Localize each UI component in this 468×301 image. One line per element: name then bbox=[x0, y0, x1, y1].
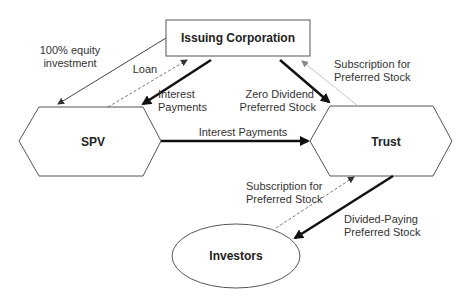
investors-label: Investors bbox=[209, 249, 263, 263]
svg-text:Divided-Paying: Divided-Paying bbox=[344, 213, 418, 225]
svg-text:Zero Dividend: Zero Dividend bbox=[246, 88, 314, 100]
svg-text:Preferred Stock: Preferred Stock bbox=[334, 71, 411, 83]
edge-subscription-investors: Subscription for Preferred Stock bbox=[246, 177, 354, 228]
svg-text:Subscription for: Subscription for bbox=[334, 58, 411, 70]
node-trust: Trust bbox=[310, 106, 452, 176]
node-spv: SPV bbox=[19, 107, 161, 176]
trust-label: Trust bbox=[371, 135, 400, 149]
issuing-corporation-label: Issuing Corporation bbox=[181, 31, 295, 45]
svg-text:100% equity: 100% equity bbox=[40, 44, 101, 56]
svg-text:Preferred Stock: Preferred Stock bbox=[246, 193, 323, 205]
node-investors: Investors bbox=[172, 224, 300, 288]
edge-interest-payments-spv-trust: Interest Payments bbox=[161, 126, 308, 141]
svg-text:Preferred Stock: Preferred Stock bbox=[344, 226, 421, 238]
svg-text:Loan: Loan bbox=[133, 63, 157, 75]
spv-label: SPV bbox=[81, 135, 105, 149]
edge-zero-dividend: Zero Dividend Preferred Stock bbox=[240, 60, 329, 113]
financing-structure-diagram: Issuing Corporation SPV Trust Investors … bbox=[0, 0, 468, 301]
svg-text:investment: investment bbox=[43, 57, 96, 69]
svg-text:Subscription for: Subscription for bbox=[246, 180, 323, 192]
edge-subscription-corp: Subscription for Preferred Stock bbox=[302, 58, 411, 106]
svg-text:Interest: Interest bbox=[158, 88, 195, 100]
node-issuing-corporation: Issuing Corporation bbox=[166, 20, 310, 56]
svg-text:Preferred Stock: Preferred Stock bbox=[240, 101, 317, 113]
svg-text:Interest Payments: Interest Payments bbox=[199, 126, 288, 138]
svg-text:Payments: Payments bbox=[158, 101, 207, 113]
